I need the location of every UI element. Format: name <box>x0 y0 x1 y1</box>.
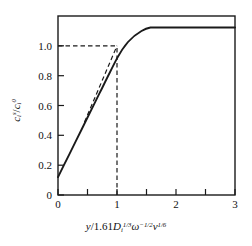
xtick-label-1: 1 <box>114 199 120 210</box>
ytick-label-0p6: 0.6 <box>22 100 52 111</box>
ytick-label-0p2: 0.2 <box>22 160 52 171</box>
x-title-omega-exponent: −1/2 <box>139 221 152 228</box>
x-title-nu-exponent: 1/6 <box>158 221 167 228</box>
x-title-diffusivity-symbol: D <box>113 220 121 232</box>
y-axis-title: cis/ci0 <box>11 83 22 139</box>
xtick-label-0: 0 <box>55 199 61 210</box>
ytick-label-0p4: 0.4 <box>22 130 52 141</box>
xtick-label-2: 2 <box>173 199 179 210</box>
y-title-c-superscript-surface: s <box>10 112 17 115</box>
ytick-label-1p0: 1.0 <box>22 40 52 51</box>
y-title-c-superscript-bulk: 0 <box>10 99 17 102</box>
ytick-label-0: 0 <box>28 190 52 201</box>
xtick-label-3: 3 <box>232 199 238 210</box>
ytick-label-0p8: 0.8 <box>22 70 52 81</box>
y-title-slash: / <box>10 109 22 112</box>
x-title-diffusivity-exponent: 1/3 <box>123 221 132 228</box>
x-title-coefficient: 1.61 <box>94 220 113 232</box>
y-title-c-subscript-bulk: i <box>15 103 22 105</box>
plot-canvas <box>0 0 252 246</box>
y-title-c-symbol-bulk: c <box>10 104 22 109</box>
plot-frame <box>58 16 235 195</box>
chart-figure: 0 0.2 0.4 0.6 0.8 1.0 0 1 2 3 y/1.61Di1/… <box>0 0 252 246</box>
x-axis-title: y/1.61Di1/3ω−1/2ν1/6 <box>0 220 252 232</box>
y-title-c-symbol-surface: c <box>10 117 22 122</box>
